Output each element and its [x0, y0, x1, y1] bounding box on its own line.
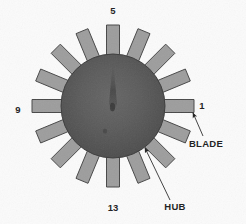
scan-grain-overlay: [0, 0, 246, 224]
rotor-diagram-figure: 15913 BLADEHUB: [0, 0, 246, 224]
diagram-canvas: 15913 BLADEHUB: [0, 0, 246, 224]
